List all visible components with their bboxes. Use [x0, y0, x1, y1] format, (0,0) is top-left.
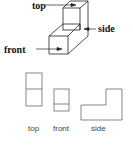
side-arrow-head: [84, 28, 89, 31]
front-view: [54, 89, 69, 111]
isometric-figure: [49, 1, 88, 54]
view-label-side: side: [91, 124, 106, 133]
view-label-front: front: [53, 124, 70, 133]
view-label-top: top: [28, 124, 40, 133]
front-arrow-head: [57, 48, 62, 51]
top-view: [26, 73, 42, 106]
side-face-bottom-edge: [68, 30, 88, 54]
orthographic-views: [26, 73, 122, 120]
lower-block-front-face: [49, 36, 68, 54]
side-view: [81, 89, 122, 120]
label-side: side: [98, 23, 115, 34]
label-front: front: [4, 44, 26, 55]
top-arrow-head: [71, 4, 76, 7]
orthographic-diagram: top side front top front side: [0, 0, 133, 146]
label-top: top: [32, 0, 46, 11]
